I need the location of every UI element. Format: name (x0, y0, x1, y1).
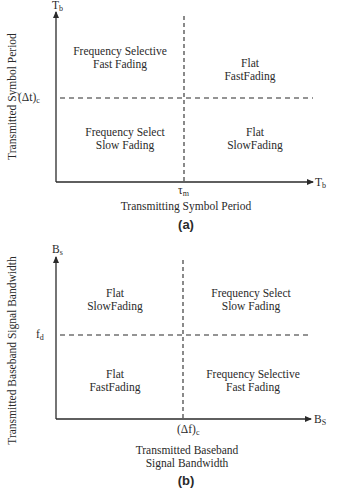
panel-a-y-axis-title: Transmitted Symbol Period (6, 0, 19, 217)
panel-a-region-top-left: Frequency SelectiveFast Fading (60, 45, 180, 71)
panel-b-y-axis-title: Transmitted Baseband Signal Bandwidth (6, 231, 19, 471)
panel-a-region-top-right: FlatFastFading (190, 57, 310, 83)
panel-a-axes (56, 12, 313, 182)
panel-a-x-axis-title: Transmitting Symbol Period (66, 200, 306, 213)
panel-b-x-axis-title: Transmitted BasebandSignal Bandwidth (67, 444, 307, 470)
panel-b-axes (56, 257, 311, 419)
panel-b-region-top-right: Frequency SelectSlow Fading (191, 287, 311, 313)
panel-b-y-threshold-label: fd (36, 328, 44, 344)
panel-a-x-threshold-label: τm (178, 184, 189, 200)
panel-b-region-bottom-right: Frequency SelectiveFast Fading (193, 368, 313, 394)
panel-a-region-bottom-left: Frequency SelectSlow Fading (65, 126, 185, 152)
panel-b-region-top-left: FlatSlowFading (55, 287, 175, 313)
panel-a-tag: (a) (166, 218, 206, 231)
panel-b-y-axis-symbol: Bs (52, 243, 63, 259)
panel-b-x-axis-symbol: BS (314, 413, 326, 429)
panel-b-tag: (b) (166, 474, 206, 487)
panel-b-region-bottom-left: FlatFastFading (55, 368, 175, 394)
panel-a-x-axis-symbol: Tb (315, 176, 326, 192)
panel-a-y-axis-symbol: Tb (52, 0, 63, 15)
panel-b-x-threshold-label: (Δf)c (177, 423, 199, 439)
panel-a-region-bottom-right: FlatSlowFading (195, 126, 315, 152)
panel-a-y-threshold-label: (Δt)c (18, 91, 40, 107)
